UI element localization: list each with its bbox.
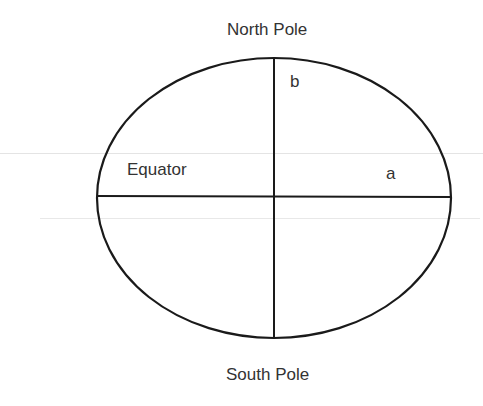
south-pole-label: South Pole: [226, 365, 309, 385]
ellipse-diagram: [0, 0, 483, 406]
north-pole-label: North Pole: [227, 20, 307, 40]
equator-label: Equator: [127, 160, 187, 180]
semi-major-axis-label: a: [386, 164, 395, 184]
equator-line: [97, 196, 451, 197]
semi-minor-axis-label: b: [290, 72, 299, 92]
